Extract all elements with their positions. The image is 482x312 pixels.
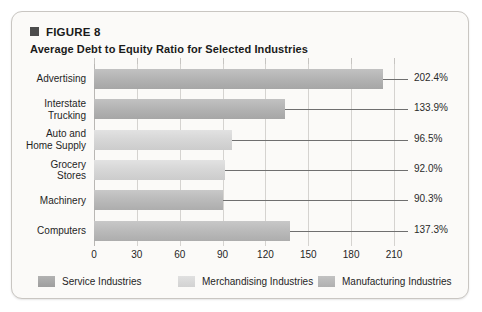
category-label-line: Trucking	[0, 110, 86, 122]
bar	[94, 221, 290, 241]
category-label-line: Computers	[0, 225, 86, 237]
bar-row: 137.3%	[94, 216, 394, 246]
category-label: Auto andHome Supply	[0, 128, 86, 151]
category-label-line: Interstate	[0, 98, 86, 110]
value-leader-line	[383, 79, 408, 80]
category-label-line: Auto and	[0, 128, 86, 140]
category-label-line: Grocery	[0, 159, 86, 171]
bar	[94, 190, 223, 210]
x-tick-label-0: 0	[91, 249, 97, 260]
legend-swatch-icon	[318, 276, 335, 287]
value-leader-line	[285, 109, 408, 110]
bar-row: 96.5%	[94, 125, 394, 155]
bar-value-label: 90.3%	[414, 193, 442, 204]
legend-item[interactable]: Merchandising Industries	[178, 274, 313, 288]
category-label-line: Stores	[0, 170, 86, 182]
category-label: Computers	[0, 225, 86, 237]
bar-value-label: 202.4%	[414, 72, 448, 83]
bar-value-label: 133.9%	[414, 102, 448, 113]
category-label: Advertising	[0, 73, 86, 85]
bar-row: 133.9%	[94, 94, 394, 124]
x-tick-label-60: 60	[174, 249, 185, 260]
bar-value-label: 137.3%	[414, 224, 448, 235]
bar-value-label: 92.0%	[414, 163, 442, 174]
x-tick-label-90: 90	[217, 249, 228, 260]
chart-plot-area: AdvertisingInterstateTruckingAuto andHom…	[94, 64, 394, 246]
x-tick-label-30: 30	[131, 249, 142, 260]
legend-item[interactable]: Manufacturing Industries	[318, 274, 452, 288]
chart-plot-wrapper: AdvertisingInterstateTruckingAuto andHom…	[12, 12, 470, 300]
category-label-line: Advertising	[0, 73, 86, 85]
category-label-line: Home Supply	[0, 140, 86, 152]
x-tick-label-180: 180	[343, 249, 360, 260]
chart-x-axis-labels: 0306090120150180210	[94, 249, 394, 263]
bar-value-label: 96.5%	[414, 133, 442, 144]
chart-legend: Service IndustriesMerchandising Industri…	[30, 274, 454, 290]
category-label: Machinery	[0, 195, 86, 207]
gridline-210	[394, 64, 395, 246]
legend-label: Service Industries	[62, 276, 141, 287]
category-label: GroceryStores	[0, 159, 86, 182]
category-label-line: Machinery	[0, 195, 86, 207]
bar	[94, 69, 383, 89]
x-tick-label-120: 120	[257, 249, 274, 260]
value-leader-line	[232, 140, 408, 141]
bar-row: 92.0%	[94, 155, 394, 185]
tick-mark-210	[394, 58, 395, 64]
figure-card: FIGURE 8 Average Debt to Equity Ratio fo…	[11, 11, 469, 299]
bar	[94, 99, 285, 119]
value-leader-line	[225, 170, 408, 171]
chart-category-labels: AdvertisingInterstateTruckingAuto andHom…	[0, 64, 86, 246]
x-tick-label-150: 150	[300, 249, 317, 260]
bar-row: 202.4%	[94, 64, 394, 94]
bar	[94, 160, 225, 180]
bar	[94, 130, 232, 150]
category-label: InterstateTrucking	[0, 98, 86, 121]
value-leader-line	[290, 231, 408, 232]
bar-row: 90.3%	[94, 185, 394, 215]
legend-item[interactable]: Service Industries	[38, 274, 141, 288]
x-tick-label-210: 210	[386, 249, 403, 260]
legend-swatch-icon	[38, 276, 55, 287]
legend-label: Merchandising Industries	[202, 276, 313, 287]
legend-swatch-icon	[178, 276, 195, 287]
value-leader-line	[223, 200, 408, 201]
legend-label: Manufacturing Industries	[342, 276, 452, 287]
